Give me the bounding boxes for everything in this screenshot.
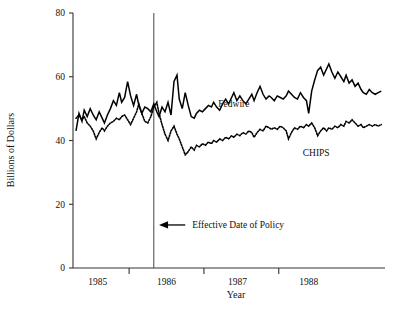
y-axis-tick-label: 40 (56, 136, 66, 146)
x-axis-tick-label: 1988 (299, 277, 318, 287)
x-axis-tick-label: 1987 (228, 277, 247, 287)
y-axis-tick-label: 20 (56, 200, 66, 210)
line-chart: 020406080 1985198619871988 FedwireCHIPS … (0, 0, 400, 314)
x-axis-title: Year (227, 289, 246, 300)
chart-figure: 020406080 1985198619871988 FedwireCHIPS … (0, 0, 400, 314)
y-axis-title: Billions of Dollars (5, 113, 16, 188)
x-axis-tick-label: 1985 (88, 277, 107, 287)
annotation-label-effective-date-of-policy: Effective Date of Policy (192, 220, 284, 230)
series-label-fedwire: Fedwire (218, 99, 249, 109)
y-axis-tick-label: 80 (56, 8, 66, 18)
series-label-chips: CHIPS (303, 148, 330, 158)
y-axis-tick-label: 60 (56, 72, 66, 82)
y-axis-tick-label: 0 (60, 263, 65, 273)
x-axis-tick-label: 1986 (157, 277, 176, 287)
